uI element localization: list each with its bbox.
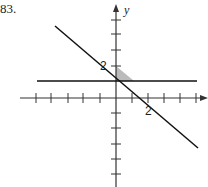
y-tick-label-2: 2: [100, 59, 107, 73]
shaded-region: [116, 66, 134, 81]
decreasing-line: [55, 26, 198, 148]
y-axis-label: y: [123, 3, 130, 17]
y-axis-arrow-icon: [113, 4, 119, 12]
coordinate-plane: y 2 2: [0, 0, 208, 187]
x-axis-arrow-icon: [200, 95, 208, 101]
x-tick-label-2: 2: [145, 104, 152, 118]
